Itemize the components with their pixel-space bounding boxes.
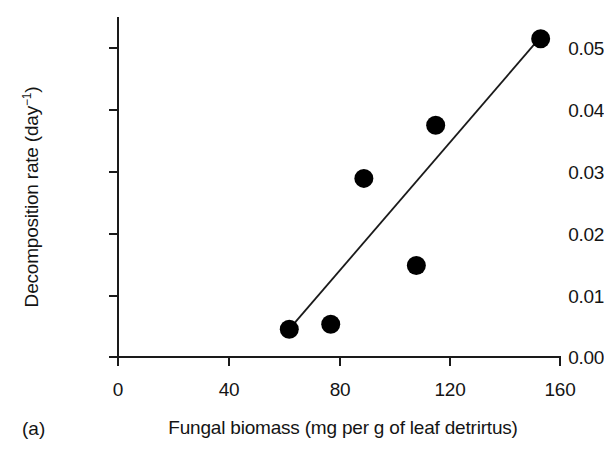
scatter-plot — [0, 0, 604, 466]
data-point-3 — [407, 256, 426, 275]
regression-line — [289, 37, 540, 329]
data-point-2 — [354, 169, 373, 188]
x-axis-ticks — [118, 357, 560, 366]
data-point-1 — [321, 315, 340, 334]
regression-line-segment — [289, 37, 540, 329]
axes-group — [109, 17, 561, 366]
y-axis-ticks — [109, 48, 118, 357]
data-point-4 — [426, 116, 445, 135]
data-point-5 — [531, 29, 550, 48]
data-point-0 — [280, 320, 299, 339]
figure-panel: Decomposition rate (day−1) 0.05 0.04 0.0… — [0, 0, 604, 466]
